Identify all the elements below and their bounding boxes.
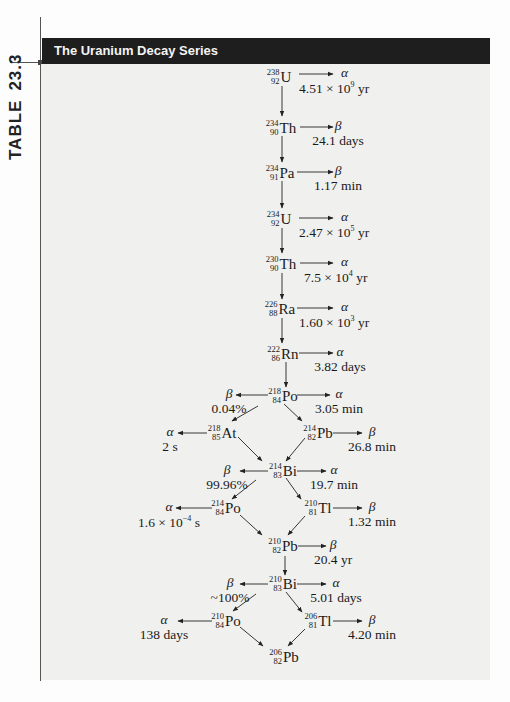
nuclide-u238: 23892U [267,68,292,86]
nuclide-th230: 23090Th [266,255,296,273]
decay-label-bi214-alpha: α19.7 min [310,463,358,491]
decay-label-th234: β24.1 days [312,119,364,147]
decay-label-u234: α2.47 × 105 yr [338,210,369,239]
decay-label-tl206: β4.20 min [348,613,396,641]
nuclide-pb210: 21082Pb [268,537,298,555]
decay-label-bi210-alpha: α5.01 days [310,576,362,604]
nuclide-u234: 23492U [267,210,292,228]
nuclide-tl206: 20681Tl [304,612,331,630]
nuclide-bi210: 21083Bi [269,575,297,593]
nuclide-po218: 21884Po [268,387,298,405]
nuclide-pb214: 21482Pb [303,424,333,442]
nuclide-po210: 21084Po [211,612,241,630]
nuclide-at218: 21885At [208,424,237,442]
decay-label-tl210: β1.32 min [348,500,396,528]
decay-label-ra226: α1.60 × 103 yr [338,300,369,329]
decay-label-at218: α2 s [162,425,177,453]
nuclide-rn222: 22286Rn [267,345,298,363]
decay-arrows [0,0,510,702]
decay-label-po218-beta: β0.04% [212,387,247,415]
nuclide-th234: 23490Th [266,119,296,137]
decay-label-pb210: β20.4 yr [314,538,352,566]
decay-label-th230: α7.5 × 104 yr [338,255,367,284]
decay-label-u238: α4.51 × 109 yr [338,66,369,95]
decay-label-po210: α138 days [140,613,188,641]
decay-label-bi214-beta: β99.96% [206,463,248,491]
nuclide-bi214: 21483Bi [269,462,297,480]
decay-label-po218-alpha: α3.05 min [315,387,363,415]
nuclide-tl210: 21081Tl [304,499,331,517]
decay-label-pb214: β26.8 min [348,425,396,453]
decay-label-po214: α1.6 × 10−4 s [138,500,200,529]
decay-label-pa234: β1.17 min [314,164,362,192]
nuclide-pa234: 23491Pa [266,164,295,182]
nuclide-pb206: 20682Pb [269,648,299,666]
nuclide-ra226: 22688Ra [265,300,295,318]
decay-label-bi210-beta: β~100% [211,576,250,604]
nuclide-po214: 21484Po [211,499,241,517]
decay-label-rn222: α3.82 days [314,345,366,373]
